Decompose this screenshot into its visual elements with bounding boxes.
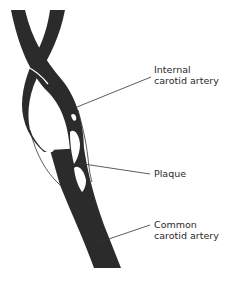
carotid-diagram: Internal carotid artery Plaque Common ca… xyxy=(0,0,226,281)
common-carotid-artery-shape xyxy=(50,148,121,268)
label-common-carotid-artery: Common carotid artery xyxy=(154,219,219,241)
label-plaque-line1: Plaque xyxy=(154,168,186,179)
label-internal-carotid-artery: Internal carotid artery xyxy=(154,64,219,86)
label-common-line1: Common xyxy=(154,219,219,230)
label-internal-line1: Internal xyxy=(154,64,219,75)
label-common-line2: carotid artery xyxy=(154,230,219,241)
label-internal-line2: carotid artery xyxy=(154,75,219,86)
label-plaque: Plaque xyxy=(154,168,186,179)
plaque-region-left xyxy=(34,132,54,152)
leader-line-internal xyxy=(77,77,151,107)
plaque-region-inner xyxy=(44,100,60,140)
